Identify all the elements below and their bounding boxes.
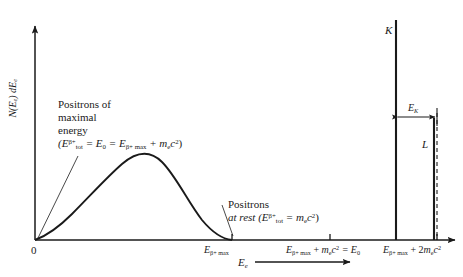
x-tick-label-e0: Eβ+ max + mec2 = E0 — [286, 244, 360, 257]
x-tick-label-beta-max: Eβ+ max — [204, 244, 229, 257]
y-axis-label: N(Ee) dEe — [7, 59, 20, 137]
x-tick-label-2mec2: Eβ+ max + 2mec2 — [383, 244, 441, 257]
ek-gap-label: EK — [408, 102, 418, 115]
annotation-maximal-energy-line1: Positrons of — [58, 98, 111, 110]
spectrum-curve — [35, 154, 232, 240]
k-peak-label: K — [385, 24, 392, 36]
l-peak-label: L — [422, 138, 428, 150]
annotation-maximal-energy-line2: maximal — [58, 111, 97, 123]
annotation-maximal-energy-formula: (Eβ+tot = E0 = Eβ+ max + mec2) — [58, 137, 182, 151]
x-tick-label-zero: 0 — [31, 244, 37, 256]
x-axis-title: Ee — [238, 256, 248, 270]
annotation-maximal-energy-line3: energy — [58, 124, 88, 136]
annotation-at-rest-line1: Positrons — [228, 198, 269, 210]
annotation-at-rest-formula: at rest (Eβ+tot = mec2) — [228, 211, 319, 225]
beta-plus-spectrum-figure: N(Ee) dEe Positrons of maximal energy (E… — [0, 0, 463, 277]
